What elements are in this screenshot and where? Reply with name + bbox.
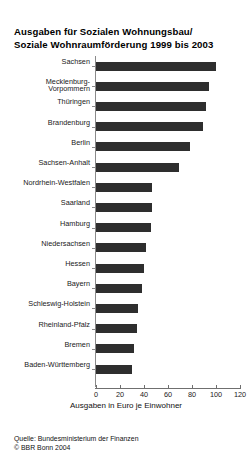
bar-row: Niedersachsen — [0, 238, 252, 258]
bar — [96, 62, 216, 71]
category-label: Bayern — [2, 280, 90, 288]
bar — [96, 324, 137, 333]
category-label: Hamburg — [2, 220, 90, 228]
category-label: Bremen — [2, 341, 90, 349]
bar-row: Baden-Württemberg — [0, 360, 252, 380]
category-label: Thüringen — [2, 98, 90, 106]
bar — [96, 365, 132, 374]
category-label: Saarland — [2, 199, 90, 207]
page-title: Ausgaben für Sozialen Wohnungsbau/ Sozia… — [14, 26, 242, 51]
category-label: Nordrhein-Westfalen — [2, 179, 90, 187]
bar — [96, 304, 138, 313]
x-axis-tick — [144, 385, 145, 388]
category-label: Hessen — [2, 260, 90, 268]
category-label: Mecklenburg- Vorpommern — [2, 78, 90, 94]
plot-area: SachsenMecklenburg- VorpommernThüringenB… — [0, 56, 252, 388]
chart-page: Ausgaben für Sozialen Wohnungsbau/ Sozia… — [0, 0, 252, 466]
x-axis-tick — [240, 385, 241, 388]
bar-row: Bayern — [0, 279, 252, 299]
bar-row: Bremen — [0, 339, 252, 359]
bar-row: Sachsen — [0, 57, 252, 77]
chart-title-line-2: Soziale Wohnraumförderung 1999 bis 2003 — [14, 39, 242, 52]
category-label: Niedersachsen — [2, 240, 90, 248]
chart-title-line-1: Ausgaben für Sozialen Wohnungsbau/ — [14, 26, 242, 39]
bar — [96, 223, 151, 232]
x-axis: 020406080100120 Ausgaben in Euro je Einw… — [0, 388, 252, 466]
chart-footer: Quelle: Bundesministerium der Finanzen ©… — [14, 434, 244, 452]
bar-row: Saarland — [0, 198, 252, 218]
bar-row: Hamburg — [0, 218, 252, 238]
copyright-text: © BBR Bonn 2004 — [14, 443, 244, 452]
bar-row: Brandenburg — [0, 117, 252, 137]
category-label: Rheinland-Pfalz — [2, 321, 90, 329]
category-label: Berlin — [2, 139, 90, 147]
bar — [96, 183, 152, 192]
category-label: Brandenburg — [2, 119, 90, 127]
bar — [96, 264, 144, 273]
x-axis-tick — [168, 385, 169, 388]
x-axis-tick — [96, 385, 97, 388]
x-axis-tick — [192, 385, 193, 388]
bar — [96, 243, 146, 252]
x-axis-tick — [216, 385, 217, 388]
x-axis-tick — [120, 385, 121, 388]
bar-row: Berlin — [0, 137, 252, 157]
bar — [96, 163, 179, 172]
category-label: Schleswig-Holstein — [2, 300, 90, 308]
category-label: Sachsen-Anhalt — [2, 159, 90, 167]
bar — [96, 344, 134, 353]
bar-row: Nordrhein-Westfalen — [0, 178, 252, 198]
bar — [96, 122, 203, 131]
bar — [96, 142, 190, 151]
x-axis-tick-label: 120 — [225, 390, 252, 399]
bar — [96, 102, 206, 111]
bar — [96, 284, 142, 293]
bar-row: Schleswig-Holstein — [0, 299, 252, 319]
category-label: Sachsen — [2, 58, 90, 66]
x-axis-line — [95, 388, 241, 389]
x-axis-title: Ausgaben in Euro je Einwohner — [0, 401, 252, 411]
source-text: Quelle: Bundesministerium der Finanzen — [14, 434, 244, 443]
bar-row: Mecklenburg- Vorpommern — [0, 77, 252, 97]
bar-row: Thüringen — [0, 97, 252, 117]
category-label: Baden-Württemberg — [2, 361, 90, 369]
bar — [96, 82, 209, 91]
bar-row: Rheinland-Pfalz — [0, 319, 252, 339]
bar-row: Hessen — [0, 259, 252, 279]
bar — [96, 203, 152, 212]
bar-row: Sachsen-Anhalt — [0, 158, 252, 178]
